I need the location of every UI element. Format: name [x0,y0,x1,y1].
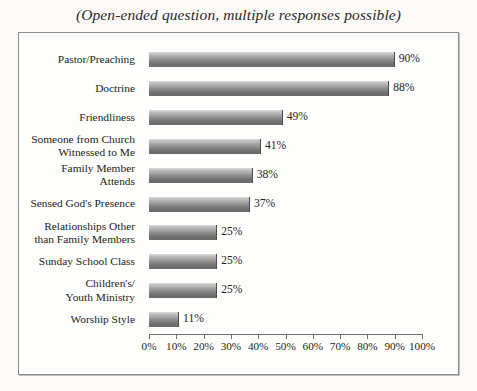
category-label-line: Youth Ministry [66,291,135,304]
bar-value-label: 90% [395,51,420,67]
category-label-line: Relationships Other [44,220,135,233]
bar-row: Doctrine88% [19,74,460,103]
bar [149,254,217,269]
category-label-line: Family Member [61,162,135,175]
x-axis-tick [395,334,396,339]
bar-value-label: 38% [253,167,278,183]
bar [149,225,217,240]
x-axis-tick-label: 60% [303,340,324,352]
bar-row: Family MemberAttends38% [19,161,460,190]
x-axis-tick [340,334,341,339]
x-axis-tick [286,334,287,339]
bar-row: Someone from ChurchWitnessed to Me41% [19,132,460,161]
bar-row: Children's/Youth Ministry25% [19,276,460,305]
category-label-line: Friendliness [79,111,135,124]
category-label-line: Pastor/Preaching [58,53,135,66]
category-label-line: Doctrine [95,82,135,95]
x-axis-tick [367,334,368,339]
bar [149,197,250,212]
category-label-line: Sunday School Class [39,255,135,268]
x-axis-tick-label: 30% [221,340,242,352]
bar-row: Sensed God's Presence37% [19,190,460,219]
chart-frame: Pastor/Preaching90%Doctrine88%Friendline… [18,32,459,375]
category-label: Someone from ChurchWitnessed to Me [19,132,141,161]
bar [149,110,283,125]
x-axis-tick-label: 50% [275,340,296,352]
bar-value-label: 25% [217,253,242,269]
bar [149,312,179,327]
bar-row: Sunday School Class25% [19,247,460,276]
bar-row: Friendliness49% [19,103,460,132]
bar [149,139,261,154]
category-label: Sunday School Class [19,247,141,276]
category-label: Family MemberAttends [19,161,141,190]
chart-title: (Open-ended question, multiple responses… [0,6,477,24]
category-label: Pastor/Preaching [19,45,141,74]
bar-row: Pastor/Preaching90% [19,45,460,74]
bar [149,81,389,96]
bar [149,283,217,298]
x-axis-tick-label: 10% [166,340,187,352]
bar-value-label: 11% [179,311,204,327]
bar-value-label: 88% [389,80,414,96]
category-label: Doctrine [19,74,141,103]
bar-value-label: 49% [283,109,308,125]
bar-value-label: 25% [217,224,242,240]
x-axis-tick [149,334,150,339]
x-axis-tick-label: 0% [142,340,157,352]
bar-row: Relationships Otherthan Family Members25… [19,218,460,247]
bar-row: Worship Style11% [19,305,460,334]
category-label: Sensed God's Presence [19,190,141,219]
category-label-line: Children's/ [85,277,135,290]
x-axis-tick-label: 20% [193,340,214,352]
x-axis-tick-label: 100% [409,340,435,352]
category-label-line: Worship Style [70,313,135,326]
x-axis-tick [204,334,205,339]
x-axis-tick-label: 80% [357,340,378,352]
x-axis-tick [176,334,177,339]
bar [149,168,253,183]
x-axis-tick [258,334,259,339]
category-label: Relationships Otherthan Family Members [19,218,141,247]
x-axis-tick [231,334,232,339]
category-label-line: Someone from Church [31,133,135,146]
category-label-line: Sensed God's Presence [30,197,135,210]
x-axis-tick-label: 40% [248,340,269,352]
category-label-line: than Family Members [34,233,135,246]
category-label: Children's/Youth Ministry [19,276,141,305]
plot-area: Pastor/Preaching90%Doctrine88%Friendline… [19,33,460,376]
bar-value-label: 37% [250,196,275,212]
category-label: Friendliness [19,103,141,132]
category-label: Worship Style [19,305,141,334]
category-label-line: Attends [100,175,135,188]
x-axis-tick [313,334,314,339]
category-label-line: Witnessed to Me [58,146,135,159]
x-axis-tick-label: 70% [330,340,351,352]
x-axis-tick-label: 90% [384,340,405,352]
bar-value-label: 25% [217,282,242,298]
x-axis-tick [422,334,423,339]
bar-value-label: 41% [261,138,286,154]
bar [149,52,395,67]
